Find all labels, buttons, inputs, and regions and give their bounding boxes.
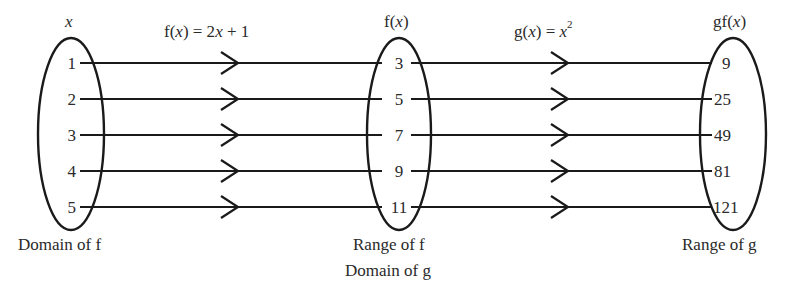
domain-f-caption: Domain of f bbox=[18, 236, 101, 253]
domain-value: 1 bbox=[60, 55, 76, 72]
g-mapping-label: g(x) = x2 bbox=[514, 21, 573, 40]
domain-value: 2 bbox=[60, 91, 76, 108]
range-f-value: 3 bbox=[383, 55, 415, 72]
range-g-value: 81 bbox=[714, 163, 754, 180]
range-g-value: 49 bbox=[714, 127, 754, 144]
domain-value: 4 bbox=[60, 163, 76, 180]
range-f-value: 5 bbox=[383, 91, 415, 108]
range-f-caption: Range of f bbox=[353, 236, 425, 253]
range-g-value: 9 bbox=[722, 55, 762, 72]
range-f-value: 11 bbox=[383, 199, 415, 216]
range-g-header: gf(x) bbox=[713, 13, 746, 30]
domain-value: 3 bbox=[60, 127, 76, 144]
domain-g-caption: Domain of g bbox=[345, 262, 431, 279]
f-mapping-label: f(x) = 2x + 1 bbox=[164, 23, 249, 40]
g-mapping-arrows bbox=[411, 52, 712, 218]
domain-header: x bbox=[65, 13, 73, 30]
f-mapping-arrows bbox=[80, 52, 382, 218]
domain-value: 5 bbox=[60, 199, 76, 216]
range-g-caption: Range of g bbox=[682, 236, 757, 253]
range-g-value: 25 bbox=[714, 91, 754, 108]
range-g-value: 121 bbox=[713, 199, 753, 216]
range-f-value: 7 bbox=[383, 127, 415, 144]
range-f-header: f(x) bbox=[384, 13, 409, 30]
range-f-value: 9 bbox=[383, 163, 415, 180]
